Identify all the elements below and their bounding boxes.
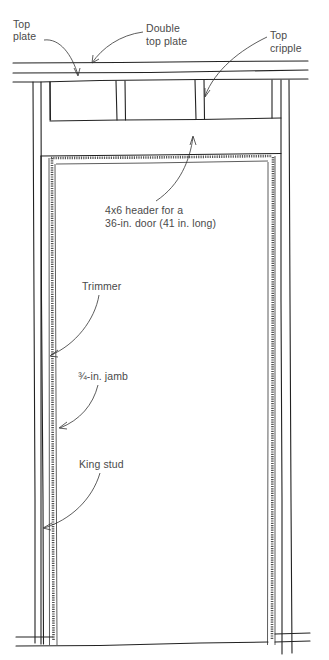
label-trimmer: Trimmer xyxy=(82,280,122,292)
double-top-plate-leader xyxy=(92,32,143,63)
top-plate-leader xyxy=(44,40,80,76)
top-cripple-leader xyxy=(205,37,267,97)
jamb xyxy=(49,156,275,645)
door-framing-diagram: Top plate Double top plate Top cripple 4… xyxy=(0,0,329,660)
top-plate xyxy=(13,79,308,82)
label-header-line2: 36-in. door (41 in. long) xyxy=(105,217,216,229)
label-top-plate-line1: Top xyxy=(13,18,30,30)
right-trimmer xyxy=(281,80,282,654)
top-cripple-1 xyxy=(50,82,51,120)
label-header-line1: 4x6 header for a xyxy=(105,204,183,216)
label-jamb: ¾-in. jamb xyxy=(78,370,128,382)
double-top-plate xyxy=(13,61,308,73)
bottom-plate xyxy=(16,633,310,646)
header-leader xyxy=(156,136,196,201)
jamb-leader xyxy=(59,385,98,429)
label-double-top-plate-line2: top plate xyxy=(146,35,187,47)
label-top-cripple-line1: Top xyxy=(270,29,287,41)
top-cripple-2 xyxy=(116,81,126,120)
label-king-stud: King stud xyxy=(79,458,124,470)
cripple-base-line xyxy=(50,118,281,121)
label-top-cripple-line2: cripple xyxy=(270,42,302,54)
label-top-plate-line2: plate xyxy=(13,30,36,42)
label-double-top-plate-line1: Double xyxy=(146,22,180,34)
trimmer-leader xyxy=(50,295,99,357)
right-king-stud xyxy=(289,80,292,653)
left-king-stud xyxy=(33,82,44,644)
king-stud-leader xyxy=(43,473,100,530)
top-cripple-3 xyxy=(195,80,205,119)
